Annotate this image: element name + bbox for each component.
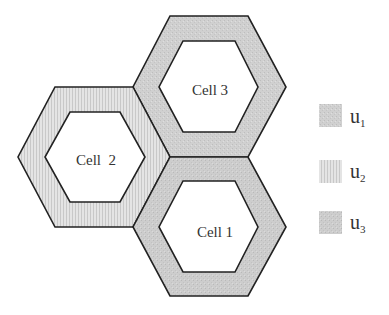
legend: u1 u2 u3 [319,104,366,235]
legend-item-u2: u2 [319,160,366,184]
cell-3-label: Cell 3 [192,82,228,98]
hexagonal-cell-diagram: Cell 3 Cell 2 Cell 1 u1 u2 u3 [0,0,389,315]
legend-item-u1: u1 [319,104,366,129]
cell-2-label: Cell 2 [76,152,116,168]
cell-1-label: Cell 1 [197,224,233,240]
legend-swatch-u3 [319,211,342,234]
legend-label-u3: u3 [350,211,366,235]
legend-swatch-u1 [319,104,342,127]
legend-label-u1: u1 [350,105,366,129]
legend-item-u3: u3 [319,211,366,235]
legend-swatch-u2 [319,160,342,183]
legend-label-u2: u2 [350,160,366,184]
